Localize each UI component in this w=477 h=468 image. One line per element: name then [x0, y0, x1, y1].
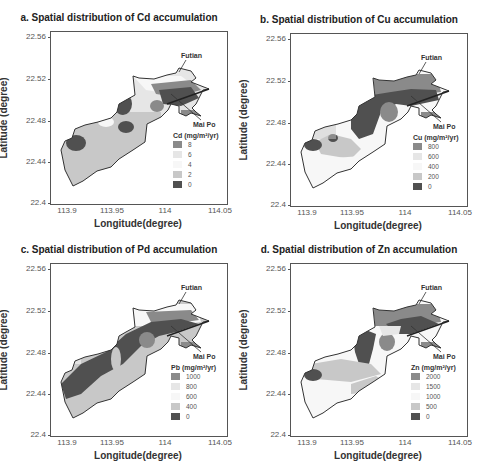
legend-item: 8: [173, 139, 219, 149]
x-tick: 113.9: [47, 438, 87, 447]
legend-item: 1000: [171, 371, 216, 381]
legend-item: 600: [413, 151, 459, 161]
y-tick: 22.44: [256, 159, 286, 168]
legend-item: 600: [171, 391, 216, 401]
y-tick: 22.52: [16, 74, 46, 83]
y-tick: 22.52: [256, 76, 286, 85]
legend-item: 2: [173, 169, 219, 179]
legend-title: Cu (mg/m²/yr): [413, 134, 459, 141]
x-tick: 114.05: [440, 208, 477, 217]
y-tick: 22.48: [256, 348, 286, 357]
y-tick: 22.56: [256, 264, 286, 273]
x-tick: 113.9: [47, 206, 87, 215]
mai-po-label: Mai Po: [433, 123, 456, 130]
mai-po-label: Mai Po: [193, 353, 216, 360]
x-tick: 114: [145, 438, 185, 447]
futian-label: Futian: [421, 284, 442, 291]
x-axis-label: Longitude(degree): [50, 450, 226, 461]
panel-title: c. Spatial distribution of Pd accumulati…: [0, 244, 238, 255]
legend: Pb (mg/m²/yr) 1000 800 600 400 0: [171, 364, 216, 421]
y-tick: 22.56: [16, 32, 46, 41]
y-tick: 22.48: [16, 116, 46, 125]
panel-b: b. Spatial distribution of Cu accumulati…: [240, 2, 477, 236]
x-tick: 114.05: [200, 438, 240, 447]
panel-a: a. Spatial distribution of Cd accumulati…: [0, 0, 238, 234]
legend-item: 0: [411, 411, 456, 421]
y-tick: 22.48: [16, 348, 46, 357]
x-tick: 114: [145, 206, 185, 215]
futian-label: Futian: [421, 54, 442, 61]
y-tick: 22.48: [256, 118, 286, 127]
y-tick: 22.4: [256, 430, 286, 439]
y-axis-label: Latitude (degree): [238, 79, 249, 160]
y-axis-label: Latitude (degree): [0, 309, 9, 390]
x-tick: 114: [385, 208, 425, 217]
legend-item: 6: [173, 149, 219, 159]
x-tick: 114.05: [200, 206, 240, 215]
x-tick: 113.95: [332, 438, 372, 447]
y-tick: 22.56: [16, 264, 46, 273]
legend-item: 800: [171, 381, 216, 391]
legend-item: 200: [413, 171, 459, 181]
legend-item: 1000: [411, 391, 456, 401]
map-plot-area: Futian Mai Po Pb (mg/m²/yr) 1000 800 600…: [50, 263, 228, 437]
panel-title: d. Spatial distribution of Zn accumulati…: [240, 244, 477, 255]
x-axis-label: Longitude(degree): [290, 450, 466, 461]
legend-item: 0: [413, 181, 459, 191]
legend: Cd (mg/m²/yr) 8 6 4 2 0: [173, 132, 219, 189]
map-plot-area: Futian Mai Po Cd (mg/m²/yr) 8 6 4 2 0: [50, 31, 228, 205]
y-axis-label: Latitude (degree): [0, 77, 9, 158]
panel-c: c. Spatial distribution of Pd accumulati…: [0, 232, 238, 466]
legend: Cu (mg/m²/yr) 800 600 400 200 0: [413, 134, 459, 191]
legend-item: 400: [171, 401, 216, 411]
legend-title: Pb (mg/m²/yr): [171, 364, 216, 371]
x-tick: 113.95: [332, 208, 372, 217]
y-tick: 22.52: [16, 306, 46, 315]
futian-label: Futian: [181, 284, 202, 291]
y-tick: 22.4: [16, 198, 46, 207]
y-tick: 22.4: [16, 430, 46, 439]
y-tick: 22.44: [256, 389, 286, 398]
legend-item: 2000: [411, 371, 456, 381]
x-tick: 113.95: [92, 438, 132, 447]
legend-title: Zn (mg/m²/yr): [411, 364, 456, 371]
panel-d: d. Spatial distribution of Zn accumulati…: [240, 232, 477, 466]
map-plot-area: Futian Mai Po Zn (mg/m²/yr) 2000 1500 10…: [290, 263, 468, 437]
x-tick: 113.95: [92, 206, 132, 215]
legend-item: 0: [173, 179, 219, 189]
legend-item: 1500: [411, 381, 456, 391]
panel-title: a. Spatial distribution of Cd accumulati…: [0, 12, 238, 23]
x-tick: 113.9: [287, 208, 327, 217]
legend-item: 400: [413, 161, 459, 171]
y-tick: 22.52: [256, 306, 286, 315]
x-axis-label: Longitude(degree): [50, 218, 226, 229]
y-tick: 22.4: [256, 200, 286, 209]
mai-po-label: Mai Po: [433, 353, 456, 360]
y-tick: 22.56: [256, 34, 286, 43]
x-tick: 113.9: [287, 438, 327, 447]
legend-item: 0: [171, 411, 216, 421]
x-tick: 114.05: [440, 438, 477, 447]
legend-item: 800: [413, 141, 459, 151]
futian-label: Futian: [181, 52, 202, 59]
mai-po-label: Mai Po: [193, 121, 216, 128]
legend-item: 500: [411, 401, 456, 411]
legend-item: 4: [173, 159, 219, 169]
x-axis-label: Longitude(degree): [290, 220, 466, 231]
x-tick: 114: [385, 438, 425, 447]
map-plot-area: Futian Mai Po Cu (mg/m²/yr) 800 600 400 …: [290, 33, 468, 207]
legend: Zn (mg/m²/yr) 2000 1500 1000 500 0: [411, 364, 456, 421]
legend-title: Cd (mg/m²/yr): [173, 132, 219, 139]
y-tick: 22.44: [16, 157, 46, 166]
y-tick: 22.44: [16, 389, 46, 398]
y-axis-label: Latitude (degree): [238, 309, 249, 390]
panel-title: b. Spatial distribution of Cu accumulati…: [240, 14, 477, 25]
